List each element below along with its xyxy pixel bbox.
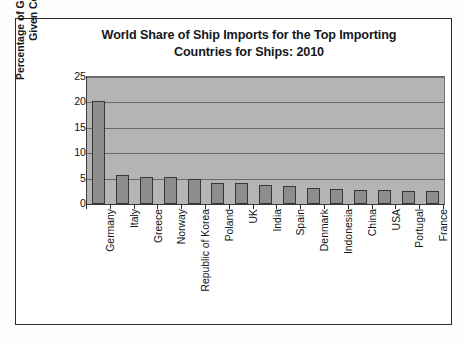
x-category-label: Norway <box>173 209 184 244</box>
bar <box>402 191 415 204</box>
x-category-label: UK <box>245 209 256 223</box>
gridline <box>87 102 444 103</box>
y-tick-label: 5 <box>62 172 86 184</box>
x-tick-label: Indonesia <box>343 209 354 254</box>
x-category-label: Republic of Korea <box>197 209 208 292</box>
x-tick-label: Denmark <box>319 209 330 251</box>
x-category-label: Greece <box>150 209 161 243</box>
bar <box>164 177 177 204</box>
x-tick-label: Greece <box>153 209 164 243</box>
x-category-label: Poland <box>221 209 232 241</box>
gridline <box>87 153 444 154</box>
x-category-label: USA <box>388 209 399 230</box>
y-tick-label: 0 <box>62 197 86 209</box>
bar <box>378 190 391 204</box>
bar <box>330 189 343 204</box>
y-tick-label: 25 <box>62 70 86 82</box>
x-category-label: Italy <box>126 209 137 228</box>
x-tick-label: Germany <box>105 209 116 252</box>
chart-title: World Share of Ship Imports for the Top … <box>53 27 445 60</box>
x-tick-label: India <box>272 209 283 232</box>
bar <box>307 188 320 204</box>
x-category-label: China <box>364 209 375 236</box>
bar <box>116 175 129 204</box>
y-axis-tick-group: 0510152025 <box>58 76 86 203</box>
bar <box>235 183 248 204</box>
y-tick-label: 20 <box>62 95 86 107</box>
x-tick-label: Norway <box>176 209 187 244</box>
bar <box>354 190 367 204</box>
y-tick-label: 15 <box>62 121 86 133</box>
gridline <box>87 128 444 129</box>
x-tick-label: UK <box>248 209 259 223</box>
x-tick-label: China <box>367 209 378 236</box>
x-tick-label: France <box>438 209 449 241</box>
bar <box>283 186 296 204</box>
x-tick-label: Spain <box>295 209 306 236</box>
x-axis-label-group: GermanyItalyGreeceNorwayRepublic of Kore… <box>86 209 445 321</box>
chart-title-line-1: World Share of Ship Imports for the Top … <box>53 27 445 44</box>
x-tick-label: Portugal <box>414 209 425 248</box>
y-axis-title-line-2: Given Country <box>27 0 40 80</box>
y-axis-title-line-1: Percentage of Global Ship Imports of a <box>14 0 27 80</box>
x-tick-label: Poland <box>224 209 235 241</box>
x-category-label: India <box>269 209 280 232</box>
plot-area <box>86 76 445 205</box>
bar <box>140 177 153 204</box>
x-tick-label: Italy <box>129 209 140 228</box>
x-category-label: Spain <box>292 209 303 236</box>
x-category-label: Portugal <box>411 209 422 248</box>
y-axis-title: Percentage of Global Ship Imports of a G… <box>14 0 36 80</box>
x-category-label: Denmark <box>316 209 327 251</box>
x-tick-label: USA <box>391 209 402 230</box>
y-tick-label: 10 <box>62 146 86 158</box>
bar <box>211 183 224 204</box>
gridline <box>87 77 444 78</box>
bar <box>188 179 201 204</box>
bar <box>259 185 272 204</box>
x-category-label: Germany <box>102 209 113 252</box>
chart-title-line-2: Countries for Ships: 2010 <box>53 44 445 61</box>
x-category-label: Indonesia <box>340 209 351 254</box>
x-tick-label: Republic of Korea <box>200 209 211 292</box>
x-category-label: France <box>435 209 446 241</box>
bar <box>92 101 105 204</box>
bar <box>426 191 439 204</box>
